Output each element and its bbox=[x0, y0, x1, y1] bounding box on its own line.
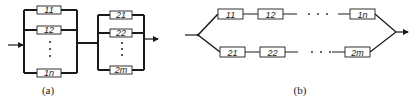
block-label: 21 bbox=[226, 48, 237, 58]
block-11: 11 bbox=[218, 9, 243, 20]
block-11: 11 bbox=[37, 5, 61, 15]
block-2m: 2m bbox=[110, 65, 132, 75]
block-22: 22 bbox=[110, 28, 132, 38]
vertical-ellipsis-icon bbox=[49, 41, 51, 57]
panel-a-caption: (a) bbox=[42, 84, 55, 97]
panel-b: 11 12 1n 21 22 bbox=[185, 9, 408, 97]
block-21: 21 bbox=[110, 10, 132, 20]
block-label: 1n bbox=[44, 68, 54, 78]
block-1n: 1n bbox=[37, 68, 61, 78]
block-label: 2m bbox=[114, 65, 128, 75]
block-label: 22 bbox=[266, 48, 277, 58]
panel-a: 11 12 1n 21 bbox=[8, 5, 158, 97]
horizontal-ellipsis-icon bbox=[308, 13, 328, 15]
block-12: 12 bbox=[37, 25, 61, 35]
block-label: 12 bbox=[44, 25, 54, 35]
block-label: 21 bbox=[115, 10, 126, 20]
block-label: 11 bbox=[226, 10, 235, 20]
block-label: 12 bbox=[265, 10, 275, 20]
block-22: 22 bbox=[260, 47, 285, 58]
block-label: 2m bbox=[350, 48, 364, 58]
block-1n: 1n bbox=[350, 9, 375, 20]
block-12: 12 bbox=[258, 9, 283, 20]
block-label: 22 bbox=[115, 28, 126, 38]
block-label: 1n bbox=[357, 10, 367, 20]
block-label: 11 bbox=[44, 5, 53, 15]
reliability-diagram: 11 12 1n 21 bbox=[0, 0, 420, 104]
horizontal-ellipsis-icon bbox=[311, 51, 331, 53]
block-2m: 2m bbox=[345, 47, 370, 58]
block-21: 21 bbox=[220, 47, 245, 58]
panel-b-caption: (b) bbox=[294, 84, 307, 97]
vertical-ellipsis-icon bbox=[121, 42, 123, 56]
